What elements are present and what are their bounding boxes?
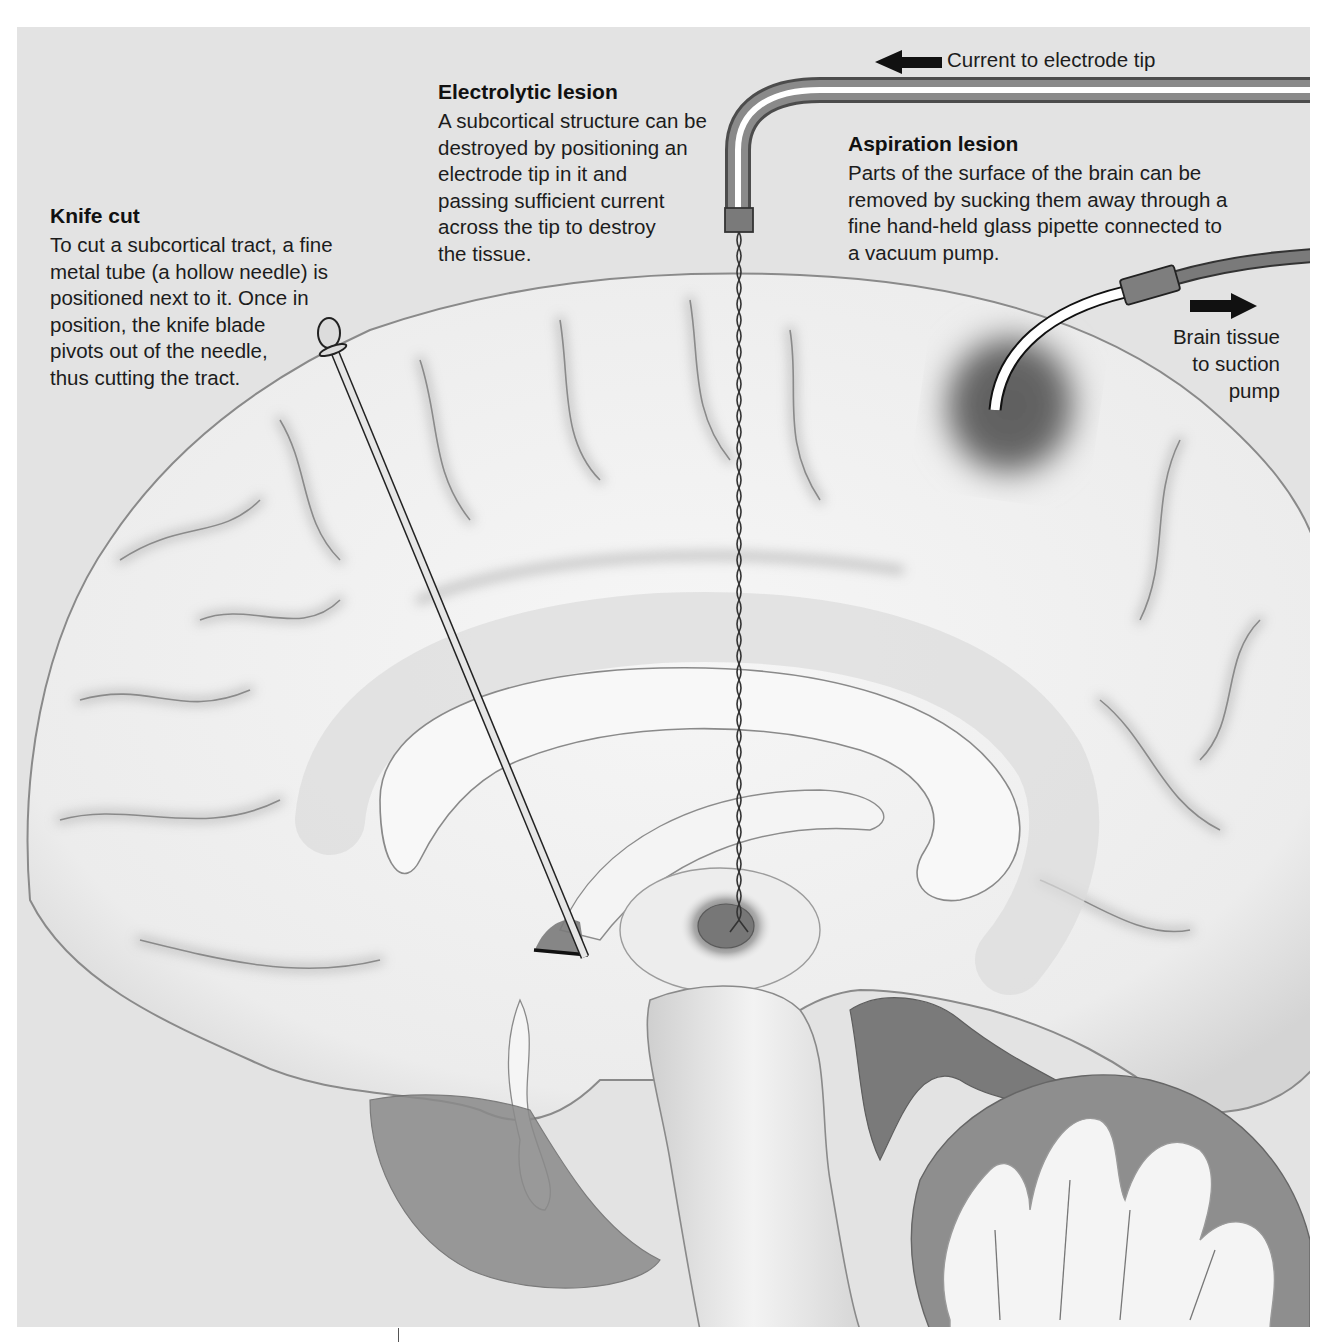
aspiration-lesion-description: Parts of the surface of the brain can be… [848, 160, 1227, 266]
electrolytic-lesion-title: Electrolytic lesion [438, 79, 707, 105]
knife-cut-description: To cut a subcortical tract, a fine metal… [50, 232, 333, 391]
knife-cut-label: Knife cut To cut a subcortical tract, a … [50, 203, 333, 391]
current-arrow-icon [875, 50, 942, 74]
aspiration-lesion-site [925, 315, 1096, 494]
temporal-lobe [370, 1095, 660, 1288]
crop-mark [398, 1328, 399, 1342]
current-to-electrode-label: Current to electrode tip [947, 48, 1156, 72]
suction-pump-label: Brain tissue to suction pump [1130, 323, 1280, 404]
brainstem [647, 986, 860, 1330]
suction-arrow-icon [1190, 293, 1257, 319]
aspiration-lesion-title: Aspiration lesion [848, 131, 1227, 157]
aspiration-lesion-label: Aspiration lesion Parts of the surface o… [848, 131, 1227, 266]
knife-cut-title: Knife cut [50, 203, 333, 229]
electrolytic-lesion-description: A subcortical structure can be destroyed… [438, 108, 707, 267]
electrolytic-lesion-label: Electrolytic lesion A subcortical struct… [438, 79, 707, 267]
